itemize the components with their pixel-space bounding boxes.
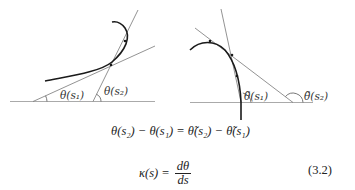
label-theta-tilde-s2: θ̃(s₂) <box>304 90 328 102</box>
left-angle-arc-s1 <box>46 96 47 102</box>
equation-curvature: κ(s) = dθ ds <box>139 160 191 187</box>
right-point-s3 <box>236 75 239 78</box>
label-theta-s1: θ(s₁) <box>60 89 84 101</box>
label-theta-s2: θ(s₂) <box>104 85 128 97</box>
equation-curvature-lhs: κ(s) = <box>139 166 170 181</box>
left-point-s1 <box>110 64 113 67</box>
right-curve <box>190 43 241 121</box>
left-panel: θ(s₁) θ(s₂) <box>10 10 155 102</box>
label-theta-tilde-s1: θ̃(s₁) <box>244 90 268 102</box>
left-tangent-s1 <box>33 46 155 102</box>
equation-number: (3.2) <box>308 163 332 178</box>
right-point-s2 <box>231 54 234 57</box>
fraction-numerator: dθ <box>175 160 191 174</box>
fraction-denominator: ds <box>177 174 188 187</box>
right-point-s1 <box>209 40 212 43</box>
right-angle-arc-s2 <box>286 93 304 102</box>
equation-curvature-fraction: dθ ds <box>175 160 191 187</box>
left-angle-arc-s2 <box>97 94 101 101</box>
left-curve <box>45 22 127 81</box>
equation-angle-difference: θ(s₂) − θ(s₁) = θ̃(s₂) − θ̃(s₁) <box>0 124 355 139</box>
left-point-s2 <box>124 40 127 43</box>
equation-angle-difference-text: θ(s₂) − θ(s₁) = θ̃(s₂) − θ̃(s₁) <box>111 124 250 138</box>
right-panel: θ̃(s₁) θ̃(s₂) <box>190 9 328 120</box>
